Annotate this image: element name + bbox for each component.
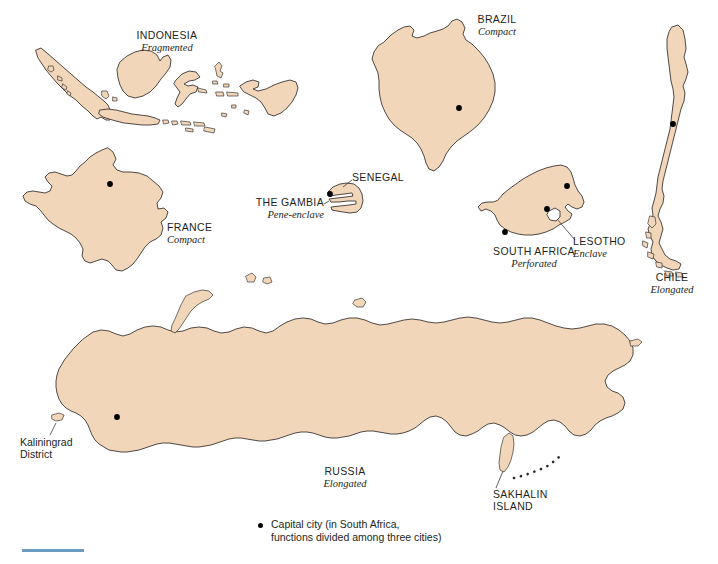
island-buru xyxy=(216,92,224,96)
island-halmahera xyxy=(215,62,223,78)
label-gambia-type: Pene-enclave xyxy=(254,209,324,221)
label-senegal-name: SENEGAL xyxy=(352,172,422,184)
island-maluku-d xyxy=(222,113,227,117)
island-timor xyxy=(204,127,215,133)
island-sulawesi-east-arm xyxy=(198,88,207,93)
label-lesotho-name: LESOTHO xyxy=(573,236,643,248)
label-indonesia: INDONESIA Fragmented xyxy=(112,30,222,54)
island-sumbawa xyxy=(181,121,191,125)
capital-city-dot-paris xyxy=(107,181,113,187)
label-indonesia-name: INDONESIA xyxy=(112,30,222,42)
sakhalin-leader-line xyxy=(496,471,503,488)
capital-city-dot-moscow xyxy=(114,414,120,420)
south-africa-mainland xyxy=(478,165,584,235)
island-lombok xyxy=(172,121,178,125)
country-brazil xyxy=(372,19,495,171)
country-russia xyxy=(50,273,642,488)
bottom-rule-divider xyxy=(22,549,84,552)
territorial-morphology-figure: INDONESIA Fragmented BRAZIL Compact FRAN… xyxy=(0,0,718,564)
label-sakhalin: SAKHALIN ISLAND xyxy=(493,489,573,513)
legend-line1: Capital city (in South Africa, xyxy=(271,518,441,531)
country-france xyxy=(23,148,168,271)
label-russia: RUSSIA Elongated xyxy=(308,466,382,490)
label-gambia: THE GAMBIA Pene-enclave xyxy=(254,197,324,221)
island-java xyxy=(99,109,160,125)
label-brazil-type: Compact xyxy=(452,26,542,38)
island-sakhalin xyxy=(499,433,514,472)
chile-mainland xyxy=(648,25,688,270)
island-maluku-c xyxy=(232,105,236,108)
capital-city-dot-cape-town xyxy=(502,229,508,235)
russia-mainland xyxy=(56,317,633,452)
label-chile-type: Elongated xyxy=(640,284,704,296)
label-kaliningrad-line1: Kaliningrad xyxy=(20,437,100,449)
island-wrangel xyxy=(630,339,642,346)
capital-city-dot-bloemfontein xyxy=(544,206,550,212)
label-sakhalin-line2: ISLAND xyxy=(493,501,573,513)
capital-city-dot-brasilia xyxy=(456,105,462,111)
country-south-africa xyxy=(478,165,584,240)
chile-island-a xyxy=(646,232,651,238)
island-novaya-zemlya xyxy=(171,290,213,333)
island-sumatra xyxy=(36,48,112,120)
label-kaliningrad: Kaliningrad District xyxy=(20,437,100,461)
island-aru xyxy=(244,110,249,115)
label-senegal: SENEGAL xyxy=(352,172,422,184)
chile-island-d xyxy=(656,262,662,268)
island-kalimantan xyxy=(117,50,171,98)
label-brazil: BRAZIL Compact xyxy=(452,14,542,38)
island-franz-josef-a xyxy=(246,273,256,282)
kuril-islands-chain xyxy=(514,457,559,478)
chile-island-b xyxy=(643,241,648,248)
label-south-africa: SOUTH AFRICA Perforated xyxy=(486,246,582,270)
island-sumba xyxy=(186,128,193,132)
island-franz-josef-b xyxy=(263,277,272,284)
island-maluku-b xyxy=(224,84,229,87)
label-russia-type: Elongated xyxy=(308,478,382,490)
label-chile-name: CHILE xyxy=(640,272,704,284)
legend-capital-city-dot-icon xyxy=(258,523,263,528)
brazil-mainland xyxy=(372,19,495,171)
capital-city-dot-santiago xyxy=(670,121,676,127)
map-legend: Capital city (in South Africa, functions… xyxy=(258,518,441,544)
island-sulawesi xyxy=(174,71,200,107)
senegal-mainland xyxy=(328,183,363,213)
label-france: FRANCE Compact xyxy=(167,222,247,246)
island-severnaya-zemlya xyxy=(353,298,366,307)
label-indonesia-type: Fragmented xyxy=(112,42,222,54)
island-maluku-a xyxy=(213,81,218,84)
france-mainland xyxy=(23,148,168,271)
country-indonesia xyxy=(36,48,298,133)
label-kaliningrad-line2: District xyxy=(20,449,100,461)
kaliningrad-leader-line xyxy=(50,423,56,435)
country-senegal xyxy=(324,180,363,213)
island-bali xyxy=(163,120,169,124)
country-chile xyxy=(643,25,688,277)
legend-line2: functions divided among three cities) xyxy=(271,531,441,544)
island-seram xyxy=(227,92,238,96)
legend-text: Capital city (in South Africa, functions… xyxy=(271,518,441,544)
label-south-africa-name: SOUTH AFRICA xyxy=(486,246,582,258)
island-flores xyxy=(194,122,205,126)
label-gambia-name: THE GAMBIA xyxy=(254,197,324,209)
capital-city-dot-pretoria xyxy=(564,183,570,189)
label-france-type: Compact xyxy=(167,234,247,246)
island-belitung xyxy=(113,97,117,101)
capital-city-dot-dakar xyxy=(327,191,333,197)
label-brazil-name: BRAZIL xyxy=(452,14,542,26)
label-sakhalin-line1: SAKHALIN xyxy=(493,489,573,501)
gambia-leader-line xyxy=(324,201,329,204)
kaliningrad-exclave xyxy=(52,413,64,421)
label-lesotho: LESOTHO Enclave xyxy=(573,236,643,260)
label-south-africa-type: Perforated xyxy=(486,258,582,270)
label-lesotho-type: Enclave xyxy=(573,248,643,260)
island-bangka xyxy=(102,91,109,99)
label-russia-name: RUSSIA xyxy=(308,466,382,478)
label-chile: CHILE Elongated xyxy=(640,272,704,296)
label-france-name: FRANCE xyxy=(167,222,247,234)
